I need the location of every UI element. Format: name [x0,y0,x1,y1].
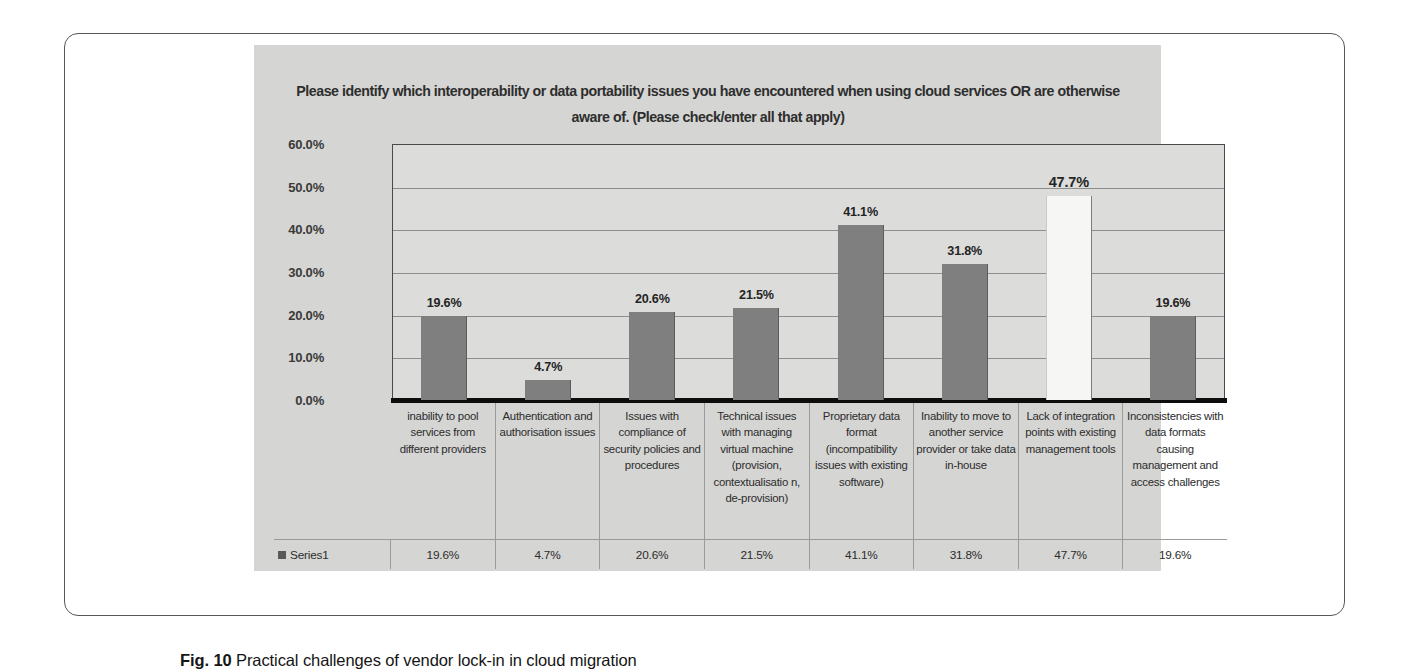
y-axis-tick-label: 20.0% [254,307,324,322]
data-table-cell: 47.7% [1019,540,1124,569]
data-table-cell: 19.6% [391,540,496,569]
data-table-cell: 21.5% [705,540,810,569]
bars-layer: 19.6%4.7%20.6%21.5%41.1%31.8%47.7%19.6% [392,144,1225,400]
y-axis-tick-label: 60.0% [254,137,324,152]
chart-panel: Please identify which interoperability o… [254,45,1161,571]
bar-slot: 41.1% [809,144,913,400]
category-label: Lack of integration points with existing… [1019,403,1124,539]
data-table-cell: 20.6% [600,540,705,569]
data-table-cell: 4.7% [496,540,601,569]
bar-value-label: 21.5% [739,288,774,302]
legend-swatch-icon [278,551,286,559]
bar[interactable] [838,225,884,400]
category-label: inability to pool services from differen… [391,403,496,539]
y-axis-tick-label: 40.0% [254,222,324,237]
bar[interactable] [1046,196,1092,400]
category-label: Inconsistencies with data formats causin… [1123,403,1227,539]
category-label: Proprietary data format (incompatibility… [810,403,915,539]
figure-frame: Please identify which interoperability o… [64,33,1345,616]
data-table-cell: 41.1% [810,540,915,569]
figure-caption-text: Practical challenges of vendor lock-in i… [236,651,637,669]
data-table-cell: 19.6% [1123,540,1227,569]
bar-slot: 19.6% [1121,144,1225,400]
bar[interactable] [942,264,988,400]
bar-value-label: 41.1% [843,205,878,219]
category-label: Issues with compliance of security polic… [600,403,705,539]
legend-cell: Series1 [274,540,391,569]
y-axis-tick-label: 0.0% [254,393,324,408]
bar[interactable] [1150,316,1196,400]
bar-value-label: 31.8% [947,244,982,258]
data-table-row: Series1 19.6%4.7%20.6%21.5%41.1%31.8%47.… [274,539,1227,569]
y-axis-tick-label: 10.0% [254,350,324,365]
bar[interactable] [733,308,779,400]
chart-title: Please identify which interoperability o… [284,78,1132,130]
bar-value-label: 19.6% [1156,296,1191,310]
bar[interactable] [525,380,571,400]
bar-value-label: 19.6% [427,296,462,310]
figure-caption: Fig. 10 Practical challenges of vendor l… [180,651,637,670]
bar-value-label: 20.6% [635,292,670,306]
category-label: Technical issues with managing virtual m… [705,403,810,539]
bar-slot: 19.6% [392,144,496,400]
bar-slot: 31.8% [913,144,1017,400]
y-axis-tick-label: 50.0% [254,179,324,194]
bar-slot: 21.5% [704,144,808,400]
legend-series-label: Series1 [290,548,329,562]
bar[interactable] [629,312,675,400]
figure-caption-label: Fig. 10 [180,651,232,669]
y-axis: 60.0%50.0%40.0%30.0%20.0%10.0%0.0% [248,45,324,571]
bar[interactable] [421,316,467,400]
y-axis-tick-label: 30.0% [254,265,324,280]
bar-slot: 20.6% [600,144,704,400]
category-label: Authentication and authorisation issues [496,403,601,539]
category-label-table: inability to pool services from differen… [391,403,1227,539]
bar-slot: 47.7% [1017,144,1121,400]
bar-value-label: 47.7% [1049,174,1089,190]
category-label: Inability to move to another service pro… [914,403,1019,539]
bar-slot: 4.7% [496,144,600,400]
bar-value-label: 4.7% [534,360,562,374]
data-table-cell: 31.8% [914,540,1019,569]
